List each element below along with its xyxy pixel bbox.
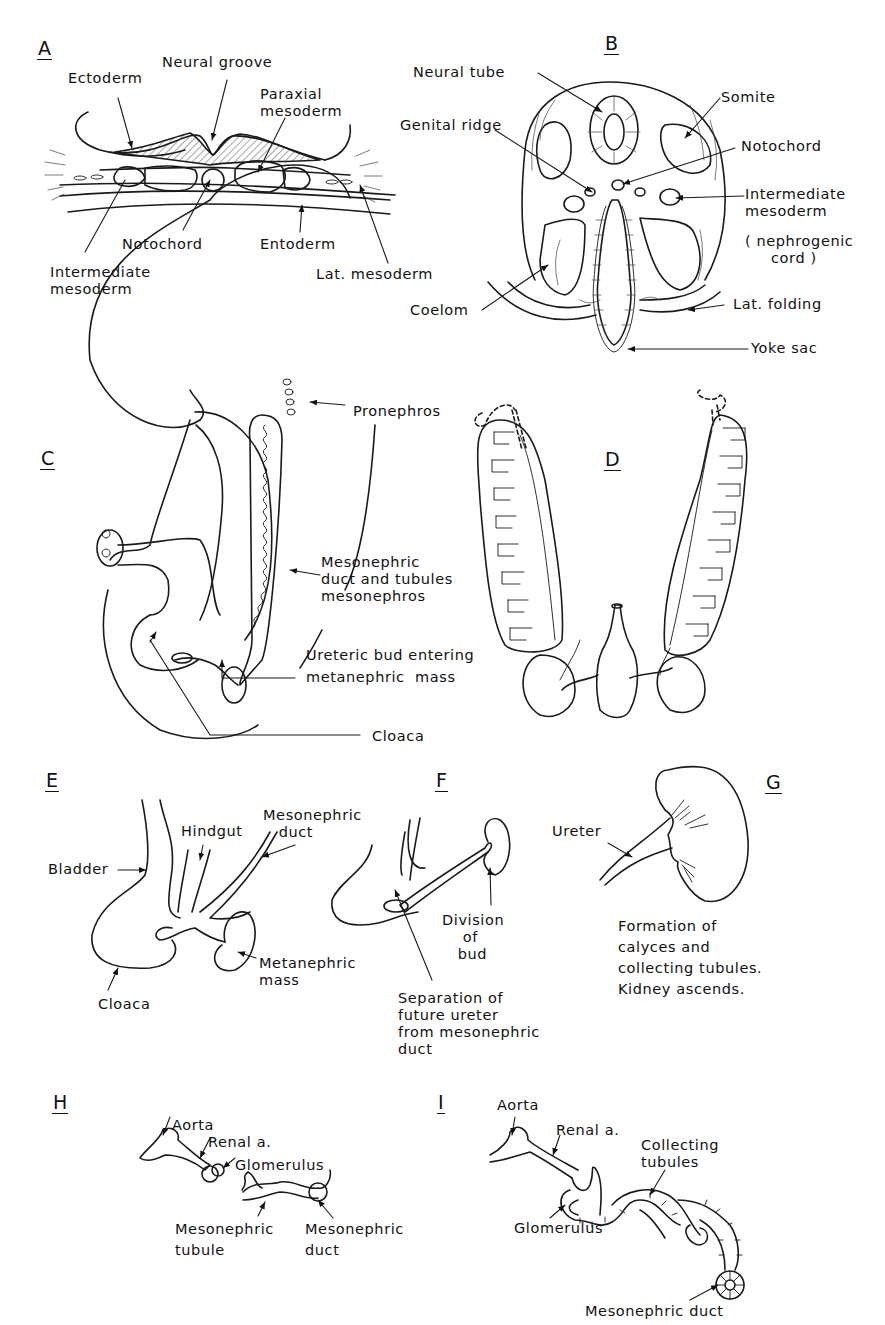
label-a-lat-mesoderm: Lat. mesoderm [316,266,433,283]
label-a-paraxial-mesoderm: Paraxial mesoderm [260,86,342,120]
label-b-coelom: Coelom [410,302,469,319]
label-i-collecting-tubules: Collecting tubules [641,1137,719,1171]
label-i-mesonephric-duct: Mesonephric duct [585,1303,724,1320]
panel-letter-a: A [37,38,52,60]
label-e-mesonephric-duct: Mesonephric duct [263,807,362,841]
panel-letter-f: F [435,770,448,792]
panel-letter-c: C [40,448,55,470]
label-b-intermediate-mesoderm: Intermediate mesoderm [745,186,846,220]
panel-letter-d: D [604,449,621,471]
panel-g-drawing [600,767,748,902]
label-i-aorta: Aorta [497,1097,539,1114]
label-h-renal-a: Renal a. [208,1134,271,1151]
panel-letter-g: G [765,772,782,794]
label-a-entoderm: Entoderm [260,236,336,253]
label-h-aorta: Aorta [172,1117,214,1134]
label-c-pronephros: Pronephros [353,403,441,420]
label-a-neural-groove: Neural groove [162,54,272,71]
label-e-hindgut: Hindgut [181,823,243,840]
label-b-genital-ridge: Genital ridge [400,117,502,134]
label-f-separation: Separation of future ureter from mesonep… [398,990,540,1058]
label-h-mesonephric-tubule: Mesonephric tubule [175,1219,274,1261]
label-i-glomerulus: Glomerulus [514,1220,603,1237]
label-a-notochord: Notochord [122,236,203,253]
label-a-intermediate-mesoderm: Intermediate mesoderm [50,264,151,298]
label-i-renal-a: Renal a. [556,1122,619,1139]
label-b-nephrogenic-cord: ( nephrogenic cord ) [745,233,853,267]
panel-letter-i: I [437,1092,445,1114]
panel-b-drawing [482,73,748,352]
label-c-ureteric-bud: Ureteric bud entering metanephric mass [306,644,474,688]
label-b-somite: Somite [721,89,775,106]
label-g-ureter: Ureter [552,823,601,840]
label-f-division-of-bud: Division of bud [442,912,504,963]
panel-d-drawing [475,390,747,718]
label-e-bladder: Bladder [48,861,108,878]
label-e-metanephric-mass: Metanephric mass [259,955,356,989]
label-a-ectoderm: Ectoderm [68,70,142,87]
label-c-mesonephric-duct: Mesonephric duct and tubules mesonephros [321,554,453,605]
label-b-notochord: Notochord [741,138,822,155]
panel-letter-h: H [52,1092,68,1114]
label-g-caption: Formation of calyces and collecting tubu… [618,916,762,1000]
label-h-glomerulus: Glomerulus [235,1157,324,1174]
label-c-cloaca: Cloaca [372,728,424,745]
label-b-neural-tube: Neural tube [413,64,505,81]
label-b-lat-folding: Lat. folding [733,296,822,313]
panel-a-drawing [45,80,395,263]
label-e-cloaca: Cloaca [98,996,150,1013]
label-b-yoke-sac: Yoke sac [751,340,817,357]
label-h-mesonephric-duct: Mesonephric duct [305,1219,404,1261]
panel-letter-b: B [604,33,619,55]
panel-letter-e: E [45,770,59,792]
